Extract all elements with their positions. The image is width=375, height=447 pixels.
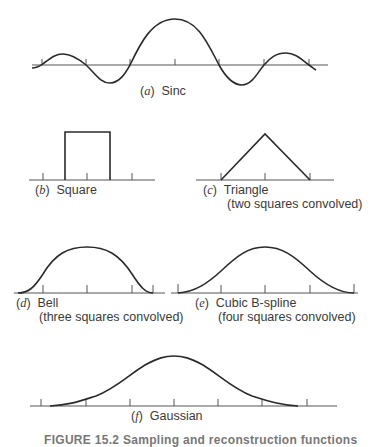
panel-e-label: (e) Cubic B-spline [195, 296, 296, 310]
sinc-plot [32, 19, 328, 85]
gaussian-plot [30, 356, 337, 406]
bell-plot [14, 247, 165, 293]
panel-d-subtitle: (three squares convolved) [39, 310, 184, 324]
panel-e-subtitle: (four squares convolved) [218, 310, 356, 324]
triangle-plot [196, 134, 334, 180]
panel-a-label: (a) Sinc [140, 84, 186, 98]
square-plot [29, 132, 155, 180]
panel-c-subtitle: (two squares convolved) [227, 197, 362, 211]
bspline-plot [171, 247, 358, 293]
panel-d-label: (d) Bell [16, 296, 58, 310]
panel-f-label: (f) Gaussian [131, 409, 203, 423]
panel-b-label: (b) Square [35, 183, 97, 197]
panel-c-label: (c) Triangle [203, 183, 269, 197]
figure-caption: FIGURE 15.2 Sampling and reconstruction … [44, 433, 357, 447]
